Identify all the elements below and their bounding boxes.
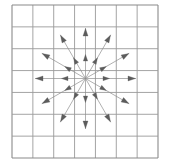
figure-background (0, 0, 170, 166)
figure-root (0, 0, 170, 166)
vector-field-figure (0, 0, 170, 166)
